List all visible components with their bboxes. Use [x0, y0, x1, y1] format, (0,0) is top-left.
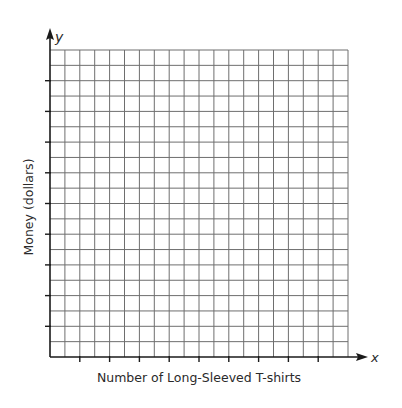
y-axis-label: Money (dollars): [21, 158, 36, 255]
y-axis-symbol: y: [54, 29, 64, 45]
coordinate-grid-chart: x y Number of Long-Sleeved T-shirts Mone…: [0, 0, 402, 408]
x-axis-label: Number of Long-Sleeved T-shirts: [97, 370, 301, 385]
grid-lines: [50, 50, 348, 357]
x-axis-symbol: x: [370, 350, 379, 365]
axis-ticks: [45, 81, 318, 362]
